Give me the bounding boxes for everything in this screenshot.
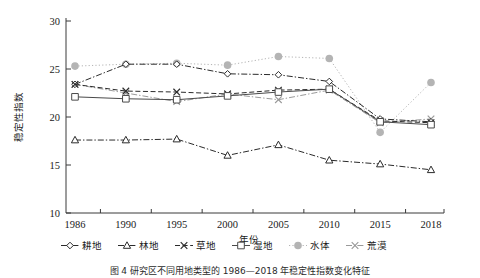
x-tick-label: 2000 <box>217 219 238 230</box>
data-point-circle <box>294 242 302 250</box>
x-tick-label: 2005 <box>268 219 289 230</box>
legend-item-耕地[interactable]: 耕地 <box>61 240 102 251</box>
x-tick-label: 2018 <box>421 219 442 230</box>
data-point-square <box>377 119 384 126</box>
data-point-square <box>326 86 333 93</box>
figure-caption: 图 4 研究区不同用地类型的 1986—2018 年稳定性指数变化特征 <box>110 265 371 276</box>
caption-text: 图 4 研究区不同用地类型的 1986—2018 年稳定性指数变化特征 <box>110 265 371 276</box>
data-point-circle <box>275 53 283 61</box>
legend-label-荒漠: 荒漠 <box>367 240 387 251</box>
data-point-square <box>224 93 231 100</box>
y-tick-label: 30 <box>50 16 61 27</box>
data-point-circle <box>376 129 384 137</box>
data-point-diamond <box>224 71 231 78</box>
data-point-circle <box>224 61 232 69</box>
legend-item-水体[interactable]: 水体 <box>289 240 330 251</box>
data-point-diamond <box>275 71 282 78</box>
y-tick-label: 25 <box>50 64 61 75</box>
y-tick-label: 20 <box>50 112 61 123</box>
y-tick-label: 15 <box>50 160 61 171</box>
legend-label-林地: 林地 <box>139 240 159 251</box>
data-point-triangle <box>326 157 333 164</box>
data-point-circle <box>71 62 79 70</box>
legend-item-草地[interactable]: 草地 <box>175 240 216 251</box>
data-point-square <box>173 96 180 103</box>
data-point-diamond <box>67 242 74 249</box>
x-tick-label: 1986 <box>65 219 86 230</box>
chart-figure: 1015202530198619901995200020052010201520… <box>0 0 480 278</box>
y-tick-label: 10 <box>50 208 61 219</box>
data-point-triangle <box>275 141 282 148</box>
chart-legend: 耕地林地草地湿地水体荒漠 <box>61 240 387 251</box>
legend-label-耕地: 耕地 <box>82 240 102 251</box>
series-林地 <box>71 135 434 172</box>
data-point-square <box>238 242 245 249</box>
data-point-cross <box>352 242 359 249</box>
legend-label-水体: 水体 <box>310 240 330 251</box>
x-tick-label: 2010 <box>319 219 340 230</box>
data-point-triangle <box>427 166 434 173</box>
data-point-square <box>72 94 79 101</box>
x-tick-label: 1990 <box>115 219 136 230</box>
legend-label-草地: 草地 <box>196 240 216 251</box>
series-layer <box>71 53 435 173</box>
line-chart: 1015202530198619901995200020052010201520… <box>0 0 480 278</box>
legend-label-湿地: 湿地 <box>253 240 273 251</box>
legend-item-荒漠[interactable]: 荒漠 <box>346 240 387 251</box>
data-point-square <box>123 95 130 102</box>
x-tick-label: 2015 <box>370 219 391 230</box>
y-axis-title: 稳定性指数 <box>13 92 24 142</box>
data-point-circle <box>427 79 435 87</box>
data-point-square <box>275 89 282 96</box>
data-point-circle <box>325 55 333 63</box>
legend-item-林地[interactable]: 林地 <box>118 240 159 251</box>
x-tick-label: 1995 <box>166 219 187 230</box>
data-point-square <box>428 121 435 128</box>
